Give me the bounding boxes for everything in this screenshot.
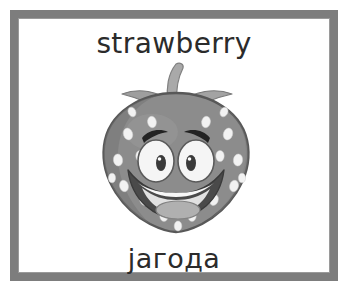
strawberry-illustration (92, 60, 260, 235)
word-english: strawberry (0, 28, 348, 60)
vocabulary-flashcard: strawberry (0, 0, 348, 292)
word-cyrillic: јагода (0, 243, 348, 274)
